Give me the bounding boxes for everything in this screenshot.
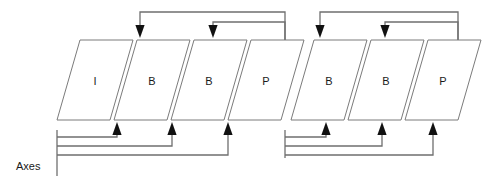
arrow-head-down-icon (380, 25, 389, 38)
arrow-head-up-icon (321, 122, 330, 135)
back-arrow-5 (285, 122, 387, 146)
arrow-head-down-icon (208, 25, 217, 38)
backward-prediction-arrow-layer (57, 122, 438, 155)
frame-label: I (93, 75, 96, 87)
back-arrow-6 (285, 122, 438, 155)
dependency-connector (385, 22, 458, 40)
forward-prediction-arrow-layer (135, 12, 458, 40)
dependency-connector (57, 135, 228, 155)
frame-label: P (439, 75, 446, 87)
arrow-head-up-icon (112, 122, 121, 135)
axes-label: Axes (16, 160, 41, 172)
arrow-head-down-icon (135, 25, 144, 38)
back-arrow-1 (57, 122, 122, 137)
frame-label: B (205, 75, 212, 87)
frame-label: P (262, 75, 269, 87)
arrow-head-down-icon (315, 25, 324, 38)
dependency-connector (285, 135, 326, 137)
dependency-connector (213, 22, 285, 40)
arrow-head-up-icon (167, 122, 176, 135)
back-arrow-3 (57, 122, 233, 155)
gop-dependency-diagram: IBBPBBP Axes (0, 0, 483, 188)
frame-label: B (148, 75, 155, 87)
fwd-arrow-2 (208, 22, 285, 40)
back-arrow-4 (285, 122, 331, 137)
arrow-head-up-icon (377, 122, 386, 135)
diagram-canvas: IBBPBBP Axes (0, 0, 483, 188)
dependency-connector (285, 135, 433, 155)
arrow-head-up-icon (428, 122, 437, 135)
frame-label: B (325, 75, 332, 87)
frame-layer: IBBPBBP (57, 40, 481, 120)
arrow-head-up-icon (223, 122, 232, 135)
dependency-connector (57, 135, 117, 137)
fwd-arrow-4 (380, 22, 458, 40)
frame-label: B (382, 75, 389, 87)
